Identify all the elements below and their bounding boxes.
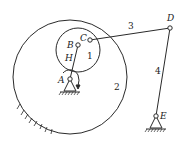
joint-E [154, 114, 158, 118]
label-A: A [57, 75, 65, 85]
label-D: D [166, 13, 174, 23]
label-C: C [80, 33, 87, 43]
planet-gear-1 [56, 28, 100, 72]
label-gear-1: 1 [87, 51, 93, 61]
joint-C [88, 38, 92, 42]
label-link-4: 4 [155, 66, 161, 76]
label-link-3: 3 [128, 21, 134, 31]
label-B: B [66, 40, 74, 50]
mechanism-diagram: A B C D E H 3 4 1 2 [0, 0, 185, 156]
joint-D [168, 26, 172, 30]
label-H: H [64, 53, 73, 63]
joint-A [68, 77, 72, 81]
label-E: E [159, 111, 167, 121]
label-gear-2: 2 [114, 82, 120, 92]
joint-B [76, 43, 80, 47]
